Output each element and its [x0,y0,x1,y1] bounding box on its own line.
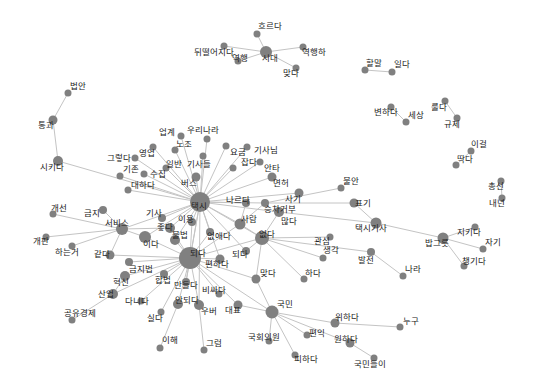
node-label: 챙기다 [462,256,486,266]
node-label: 업계 [159,127,175,137]
node-label: 표기 [355,198,371,208]
node-label: 일반 [166,159,182,169]
node-label: 하다 [305,268,321,278]
node-label: 이해 [162,335,178,345]
node-label: 발전 [358,255,374,265]
graph-node [99,206,107,214]
node-label: 국회의원 [248,332,280,342]
node-label: 공유경제 [64,308,96,318]
node-label: 맞다 [283,68,299,78]
node-label: 편하다 [205,259,229,269]
node-label: 규제 [444,119,460,129]
node-label: 불법 [172,230,188,240]
node-label: 일다 [394,59,410,69]
node-label: 없다 [259,229,275,239]
node-label: 변하다 [374,107,398,117]
node-label: 시키다 [40,162,64,172]
graph-node [230,165,237,172]
graph-edge [443,238,483,249]
node-label: 할말 [366,58,382,68]
node-label: 택시 [191,201,207,211]
node-label: 영업 [139,148,155,158]
graph-node [320,255,327,262]
node-label: 위하다 [335,312,359,322]
node-label: 세상 [408,110,424,120]
node-label: 버스 [181,178,197,188]
node-label: 뒤떨어지다 [194,47,234,57]
node-label: 역행하 [302,47,326,57]
node-label: 생각 [323,245,339,255]
word-network-graph: 시대흐르다뒤떨어지다역행역행하맞다할말일다변하다세상룰다규제이걸딱다총선내년법안… [0,0,533,392]
node-label: 다니다 [125,296,149,306]
graph-node [257,159,264,166]
node-label: 되다 [190,248,206,258]
graph-node [254,31,261,38]
node-label: 노조 [176,139,192,149]
node-label: 승차거부 [264,204,296,214]
graph-edge [371,252,403,276]
node-label: 나라 [405,264,421,274]
node-label: 비싸다 [202,285,226,295]
node-label: 개선 [51,203,67,213]
node-label: 대하다 [131,180,155,190]
node-label: 개판 [33,236,49,246]
node-label: 되다 [232,249,248,259]
node-label: 그렇다 [107,153,131,163]
node-label: 누구 [403,316,419,326]
node-label: 국민들이 [354,359,386,369]
node-label: 우리나라 [187,125,219,135]
node-label: 택시기사 [355,223,387,233]
node-label: 합법 [155,275,171,285]
graph-node [157,345,164,352]
graph-edge [53,93,68,120]
node-label: 기사들 [187,159,211,169]
node-label: 만들다 [174,280,198,290]
node-label: 좋다 [157,222,173,232]
node-label: 나르다 [226,195,250,205]
node-label: 총선 [488,181,504,191]
node-label: 통과 [38,120,54,130]
node-label: 시대 [262,53,278,63]
node-label: 불안 [343,176,359,186]
node-label: 이걸 [471,139,487,149]
node-label: 면허 [273,178,289,188]
node-label: 자기 [485,237,501,247]
node-label: 이다 [143,239,159,249]
graph-edge [272,312,335,323]
graph-edge [365,70,392,72]
node-label: 실다 [147,313,163,323]
node-label: 산업 [98,289,114,299]
node-label: 혁신 [113,277,129,287]
node-label: 사기 [285,194,301,204]
node-label: 안타 [264,163,280,173]
node-label: 수집 [150,169,166,179]
node-label: 없애다 [207,231,231,241]
graph-node [389,69,396,76]
node-label: 대표 [225,305,241,315]
node-label: 맞다 [260,268,276,278]
node-label: 딱다 [457,154,473,164]
node-label: 많다 [281,216,297,226]
graph-node [141,171,148,178]
node-label: 법안 [70,81,86,91]
node-label: 국민 [277,299,293,309]
graph-node [223,143,230,150]
node-label: 같다 [94,249,110,259]
node-label: 잡다 [241,157,257,167]
node-label: 요금 [230,147,246,157]
node-label: 사람 [241,214,257,224]
node-label: 안되다 [175,295,199,305]
node-label: 밥그릇 [425,238,449,248]
graph-node [204,136,211,143]
node-label: 하는거 [55,247,79,257]
node-label: 기존 [123,164,139,174]
node-label: 그럼 [206,338,222,348]
node-label: 우버 [201,306,217,316]
node-label: 이용 [178,214,194,224]
node-label: 기사님 [254,145,278,155]
node-label: 서비스 [105,218,129,228]
node-label: 원하다 [334,334,358,344]
node-label: 내년 [489,198,505,208]
graph-edge [110,255,190,258]
node-label: 금지 [84,208,100,218]
